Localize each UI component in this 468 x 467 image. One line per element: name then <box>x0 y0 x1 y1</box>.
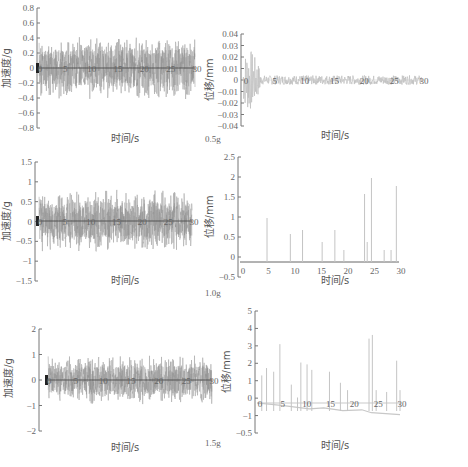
y-tick-label: −1 <box>26 401 36 411</box>
y-tick-label: 0.6 <box>23 18 35 28</box>
x-tick-label: 20 <box>138 217 148 227</box>
x-tick-label: 5 <box>266 266 271 276</box>
y-axis-label: 位移/mm <box>203 59 215 102</box>
y-tick-label: −0.4 <box>18 93 35 103</box>
x-tick-label: 25 <box>374 399 384 409</box>
chart-panel-top-right: 0.040.030.020.010−0.01−0.02−0.03−0.04051… <box>203 29 429 141</box>
y-tick-label: 1 <box>231 212 236 222</box>
x-tick-label: 0 <box>241 266 246 276</box>
x-tick-label: 10 <box>291 266 301 276</box>
y-tick-label: 5 <box>248 306 253 316</box>
chart-panel-bottom-left: 210−1−2051015202530时间/s加速度/g1.5g <box>2 324 221 453</box>
x-tick-label: 5 <box>63 217 68 227</box>
y-axis-label: 位移/mm <box>220 351 232 394</box>
y-tick-label: 0 <box>30 63 35 73</box>
chart-panel-middle-right: 2.521.510.50−0.5051015202530时间/s位移/mm <box>203 152 406 286</box>
x-tick-label: 10 <box>86 217 96 227</box>
y-tick-label: 0.2 <box>23 48 34 58</box>
x-tick-label: 20 <box>140 64 150 74</box>
x-tick-label: 25 <box>182 376 192 386</box>
x-tick-label: 30 <box>190 217 200 227</box>
x-tick-label: 15 <box>112 217 122 227</box>
y-tick-label: −0.04 <box>217 121 238 131</box>
x-tick-label: 30 <box>193 64 203 74</box>
y-tick-label: 2 <box>32 324 37 334</box>
x-tick-label: 5 <box>281 399 286 409</box>
x-axis-label: 时间/s <box>321 129 350 141</box>
y-tick-label: 0 <box>28 217 33 227</box>
x-tick-label: 25 <box>164 217 174 227</box>
y-tick-label: 1 <box>32 350 37 360</box>
x-tick-label: 0 <box>38 64 43 74</box>
y-tick-label: 1 <box>248 376 253 386</box>
chart-panel-top-left: 0.80.60.40.20−0.2−0.4−0.6−0.805101520253… <box>0 3 221 144</box>
x-axis-label: 时间/s <box>111 274 140 286</box>
y-tick-label: −0.5 <box>16 236 33 246</box>
x-tick-label: 30 <box>397 266 407 276</box>
y-tick-label: 0 <box>32 375 37 385</box>
y-tick-label: −0.2 <box>18 78 34 88</box>
y-tick-label: 0 <box>234 75 239 85</box>
y-tick-label: 0.01 <box>222 64 238 74</box>
x-tick-label: 25 <box>390 76 400 86</box>
x-tick-label: 25 <box>370 266 380 276</box>
x-tick-label: 10 <box>99 376 109 386</box>
y-axis-label: 位移/mm <box>203 196 215 239</box>
y-tick-label: 0.03 <box>222 41 238 51</box>
x-tick-label: 5 <box>73 376 78 386</box>
y-tick-label: −0.03 <box>217 110 238 120</box>
x-tick-label: 15 <box>326 399 336 409</box>
y-tick-label: 0.5 <box>21 197 33 207</box>
x-axis-label: 时间/s <box>321 274 350 286</box>
y-tick-label: −1.5 <box>16 276 33 286</box>
figure-canvas: 0.80.60.40.20−0.2−0.4−0.6−0.805101520253… <box>0 0 468 467</box>
x-tick-label: 0 <box>244 76 249 86</box>
x-tick-label: 5 <box>273 76 278 86</box>
y-tick-label: 1 <box>28 177 33 187</box>
x-tick-label: 30 <box>420 76 430 86</box>
y-tick-label: −0.01 <box>217 87 238 97</box>
x-tick-label: 20 <box>360 76 370 86</box>
x-tick-label: 5 <box>63 64 68 74</box>
x-tick-label: 10 <box>302 399 312 409</box>
y-tick-label: −0.5 <box>219 272 236 282</box>
x-tick-label: 0 <box>258 399 263 409</box>
y-tick-label: −2 <box>26 426 36 436</box>
y-tick-label: 0 <box>231 252 236 262</box>
y-tick-label: 4 <box>248 323 253 333</box>
x-tick-label: 30 <box>210 376 220 386</box>
x-tick-label: 0 <box>47 376 52 386</box>
y-axis-label: 加速度/g <box>2 358 14 398</box>
y-tick-label: −0.5 <box>236 428 253 438</box>
intensity-caption: 0.5g <box>205 134 221 144</box>
x-axis-label: 时间/s <box>111 441 140 453</box>
chart-panel-bottom-right: 543210−1−0.5051015202530时间/s位移/mm <box>220 306 407 451</box>
x-tick-label: 10 <box>300 76 310 86</box>
y-tick-label: 0.04 <box>222 29 238 39</box>
y-tick-label: 0.8 <box>23 3 35 13</box>
y-tick-label: 0 <box>248 393 253 403</box>
y-tick-label: 0.02 <box>222 52 238 62</box>
y-tick-label: 2 <box>231 172 236 182</box>
y-axis-label: 加速度/g <box>0 201 12 241</box>
y-tick-label: 2 <box>248 358 253 368</box>
x-tick-label: 15 <box>127 376 137 386</box>
y-tick-label: 0.4 <box>23 33 35 43</box>
x-tick-label: 15 <box>330 76 340 86</box>
x-tick-label: 10 <box>87 64 97 74</box>
x-tick-label: 15 <box>114 64 124 74</box>
x-tick-label: 20 <box>350 399 360 409</box>
x-tick-label: 30 <box>398 399 408 409</box>
y-tick-label: −1 <box>22 256 32 266</box>
chart-panel-middle-left: 1.510.50−0.5−1−1.5051015202530时间/s加速度/g1… <box>0 157 221 298</box>
y-tick-label: −0.02 <box>217 98 238 108</box>
y-tick-label: −0.8 <box>18 123 35 133</box>
x-tick-label: 20 <box>154 376 164 386</box>
y-tick-label: 1.5 <box>224 192 236 202</box>
y-tick-label: 3 <box>248 341 253 351</box>
x-tick-label: 25 <box>166 64 176 74</box>
y-tick-label: 0.5 <box>224 232 236 242</box>
x-axis-label: 时间/s <box>321 439 350 451</box>
y-axis-label: 加速度/g <box>0 48 12 88</box>
y-tick-label: 2.5 <box>224 152 236 162</box>
